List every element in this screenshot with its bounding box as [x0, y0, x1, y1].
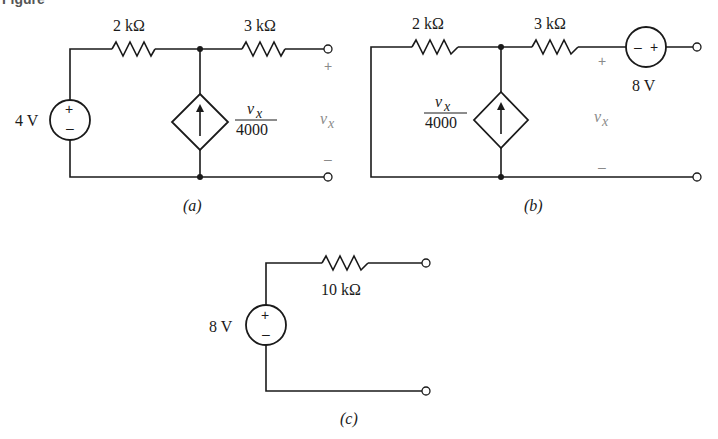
panel-c-label: (c) [340, 410, 358, 428]
voltage-source-b-icon: – + [626, 27, 666, 67]
resistor-c-10k-label: 10 kΩ [321, 281, 361, 298]
wire-c-bottom [266, 345, 422, 391]
voltage-source-a-icon: + – [50, 100, 90, 140]
dependent-source-b-label: v x 4000 [424, 93, 467, 131]
voltage-source-c-icon: + – [246, 305, 286, 345]
terminal-b-top [693, 43, 701, 51]
resistor-b-2k-label: 2 kΩ [412, 15, 444, 32]
resistor-a-3k-label: 3 kΩ [244, 17, 276, 34]
output-b-voltage-label: v x [594, 108, 609, 129]
circuit-figure: Figure 2 kΩ 3 kΩ + – 4 V [0, 0, 718, 439]
svg-text:–: – [262, 326, 270, 342]
dependent-source-a-label: v x 4000 [235, 100, 277, 138]
output-a-voltage-label: v x [320, 110, 335, 131]
svg-text:–: – [66, 120, 74, 136]
resistor-b-2k [412, 40, 458, 54]
voltage-source-a-label: 4 V [15, 112, 39, 129]
svg-text:x: x [327, 116, 335, 131]
resistor-b-3k [532, 40, 578, 54]
svg-text:v: v [320, 110, 328, 127]
svg-text:–: – [634, 39, 642, 55]
resistor-a-2k-label: 2 kΩ [113, 17, 145, 34]
svg-text:4000: 4000 [236, 121, 268, 138]
svg-text:v: v [247, 100, 255, 117]
panel-b-label: (b) [524, 197, 543, 215]
resistor-c-10k [322, 256, 368, 270]
output-b-minus: – [598, 159, 606, 175]
dependent-current-source-a-icon [172, 94, 228, 150]
svg-text:x: x [601, 114, 609, 129]
output-b-plus: + [598, 53, 606, 69]
terminal-a-top [324, 45, 332, 53]
wire-a-left [70, 49, 112, 100]
terminal-c-bottom [422, 387, 430, 395]
node-a-top [197, 46, 203, 52]
svg-text:Figure: Figure [2, 0, 45, 7]
resistor-a-3k [242, 42, 285, 56]
node-a-bottom [197, 174, 203, 180]
output-a-minus: – [324, 151, 332, 167]
svg-text:4000: 4000 [425, 114, 457, 131]
panel-c: 10 kΩ + – 8 V (c) [209, 256, 430, 428]
panel-a-label: (a) [183, 197, 202, 215]
resistor-a-2k [112, 42, 155, 56]
svg-text:v: v [435, 93, 443, 110]
svg-text:+: + [65, 101, 73, 117]
panel-b: 2 kΩ 3 kΩ – + 8 V v x 4000 + v x [371, 15, 701, 215]
voltage-source-c-label: 8 V [209, 318, 233, 335]
resistor-b-3k-label: 3 kΩ [534, 15, 566, 32]
svg-text:+: + [650, 39, 658, 55]
node-b-bottom [498, 174, 504, 180]
svg-text:x: x [255, 106, 263, 121]
terminal-b-bottom [693, 173, 701, 181]
output-a-plus: + [324, 58, 332, 74]
wire-c-top [266, 263, 322, 305]
figure-caption-partial: Figure [2, 0, 45, 7]
terminal-a-bottom [324, 173, 332, 181]
svg-text:v: v [594, 108, 602, 125]
dependent-current-source-b-icon [474, 92, 528, 148]
svg-text:+: + [261, 307, 269, 323]
svg-text:x: x [443, 99, 451, 114]
terminal-c-top [422, 259, 430, 267]
panel-a: 2 kΩ 3 kΩ + – 4 V v x 4000 + [15, 17, 335, 215]
voltage-source-b-label: 8 V [632, 77, 656, 94]
node-b-top [498, 44, 504, 50]
